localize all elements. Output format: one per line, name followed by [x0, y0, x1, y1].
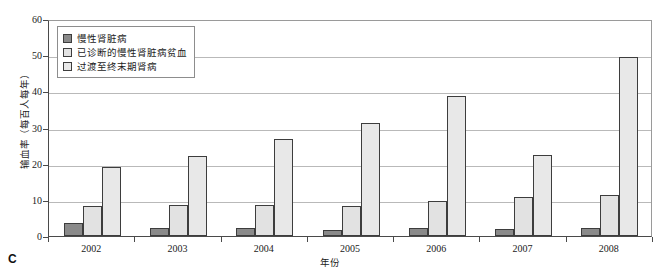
- x-axis-title: 年份: [0, 255, 660, 269]
- y-axis-tick-mark: [43, 237, 48, 238]
- y-axis-tick-mark: [43, 165, 48, 166]
- legend-swatch-icon: [63, 62, 72, 71]
- y-axis-tick-mark: [43, 56, 48, 57]
- bar-group: [495, 21, 552, 236]
- bar: [323, 230, 342, 236]
- x-axis-tick-label: 2005: [320, 243, 380, 254]
- bar: [342, 206, 361, 236]
- x-axis-tick-mark: [307, 237, 308, 242]
- x-axis-tick-mark: [393, 237, 394, 242]
- x-axis-tick-mark: [479, 237, 480, 242]
- legend-item: 慢性肾脏病: [63, 31, 187, 45]
- bar: [150, 228, 169, 236]
- y-axis-tick-label: 20: [20, 160, 42, 170]
- x-axis-tick-label: 2006: [406, 243, 466, 254]
- bar: [188, 156, 207, 236]
- x-axis-tick-label: 2003: [147, 243, 207, 254]
- y-axis-tick-mark: [43, 92, 48, 93]
- bar: [83, 206, 102, 236]
- y-axis-tick-label: 10: [20, 196, 42, 206]
- y-axis-tick-label: 40: [20, 87, 42, 97]
- bar: [514, 197, 533, 236]
- bar: [255, 205, 274, 236]
- bar: [447, 96, 466, 236]
- x-axis-tick-label: 2004: [234, 243, 294, 254]
- bar: [533, 155, 552, 236]
- bar: [64, 223, 83, 236]
- bar: [600, 195, 619, 236]
- bar: [619, 57, 638, 236]
- y-axis-tick-label: 30: [20, 124, 42, 134]
- bar-group: [236, 21, 293, 236]
- bar-chart-figure: 输血率（每百人每年） 0102030405060 200220032004200…: [0, 0, 660, 273]
- bar: [274, 139, 293, 236]
- y-axis-tick-label: 0: [20, 232, 42, 242]
- bar: [102, 167, 121, 236]
- x-axis-tick-mark: [566, 237, 567, 242]
- chart-legend: 慢性肾脏病已诊断的慢性肾脏病贫血过渡至终末期肾病: [57, 26, 195, 78]
- legend-item-label: 过渡至终末期肾病: [77, 59, 157, 73]
- bar-group: [581, 21, 638, 236]
- x-axis-tick-mark: [48, 237, 49, 242]
- panel-letter: C: [8, 252, 17, 266]
- x-axis-tick-label: 2008: [579, 243, 639, 254]
- legend-swatch-icon: [63, 48, 72, 57]
- x-axis-tick-label: 2002: [61, 243, 121, 254]
- bar: [361, 123, 380, 236]
- bar: [581, 228, 600, 236]
- y-axis-tick-mark: [43, 20, 48, 21]
- bar: [428, 201, 447, 236]
- bar: [169, 205, 188, 236]
- y-axis-tick-mark: [43, 129, 48, 130]
- bar-group: [409, 21, 466, 236]
- legend-item-label: 已诊断的慢性肾脏病贫血: [77, 45, 187, 59]
- y-axis-tick-mark: [43, 201, 48, 202]
- x-axis-tick-label: 2007: [493, 243, 553, 254]
- legend-item: 已诊断的慢性肾脏病贫血: [63, 45, 187, 59]
- y-axis-tick-label: 50: [20, 51, 42, 61]
- x-axis-tick-mark: [134, 237, 135, 242]
- y-axis-ticks: 0102030405060: [18, 0, 42, 273]
- legend-swatch-icon: [63, 34, 72, 43]
- bar: [495, 229, 514, 236]
- legend-item-label: 慢性肾脏病: [77, 31, 127, 45]
- bar-group: [323, 21, 380, 236]
- x-axis-tick-mark: [652, 237, 653, 242]
- legend-item: 过渡至终末期肾病: [63, 59, 187, 73]
- bar: [236, 228, 255, 236]
- bar: [409, 228, 428, 236]
- x-axis-tick-mark: [221, 237, 222, 242]
- y-axis-tick-label: 60: [20, 15, 42, 25]
